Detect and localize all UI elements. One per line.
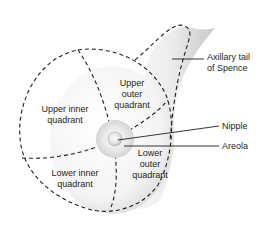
label-line: Upper inner: [30, 104, 100, 115]
label-line: outer: [126, 159, 174, 170]
callout-nipple: Nipple: [222, 121, 248, 132]
label-line: Lower: [126, 148, 174, 159]
label-lower-outer-quadrant: Lower outer quadrant: [126, 148, 174, 181]
label-upper-outer-quadrant: Upper outer quadrant: [108, 78, 156, 111]
callout-text: Areola: [222, 141, 248, 152]
label-line: quadrant: [126, 170, 174, 181]
label-line: Lower inner: [40, 168, 110, 179]
callout-axillary-tail-of-spence: Axillary tail of Spence: [207, 52, 250, 74]
callout-line: Axillary tail: [207, 52, 250, 63]
label-line: quadrant: [108, 100, 156, 111]
label-line: outer: [108, 89, 156, 100]
label-line: quadrant: [40, 179, 110, 190]
callout-line: of Spence: [207, 63, 250, 74]
nipple: [108, 132, 122, 146]
label-upper-inner-quadrant: Upper inner quadrant: [30, 104, 100, 126]
callout-text: Nipple: [222, 121, 248, 132]
label-lower-inner-quadrant: Lower inner quadrant: [40, 168, 110, 190]
label-line: Upper: [108, 78, 156, 89]
callout-areola: Areola: [222, 141, 248, 152]
label-line: quadrant: [30, 115, 100, 126]
